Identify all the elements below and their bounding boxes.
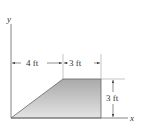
trapezoid-area [11,79,101,118]
dim-label-4ft: 4 ft [26,58,39,68]
y-axis-label: y [6,14,11,24]
dim-label-3ft-horizontal: 3 ft [69,58,82,68]
dim-label-3ft-vertical: 3 ft [106,93,119,103]
diagram: y x 4 ft 3 ft 3 ft [0,0,143,129]
x-axis-label: x [129,113,134,123]
